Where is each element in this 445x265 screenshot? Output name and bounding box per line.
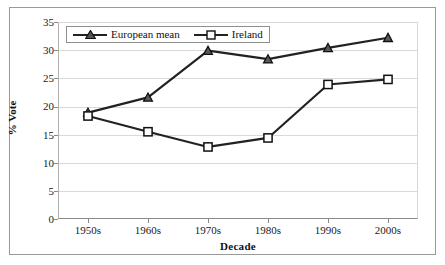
gridline: [59, 135, 417, 136]
legend-item-european-mean[interactable]: European mean: [73, 29, 180, 40]
legend-swatch: [73, 29, 107, 40]
y-tick-label: 0: [28, 214, 54, 225]
y-tick-label: 35: [28, 17, 54, 28]
x-tick-mark: [88, 219, 89, 223]
y-tick-label: 20: [28, 101, 54, 112]
gridline: [59, 191, 417, 192]
y-axis-tick-labels: 35 30 25 20 15 10 5 0: [26, 0, 54, 265]
legend-label: European mean: [111, 29, 180, 40]
y-tick-label: 25: [28, 73, 54, 84]
x-axis-title: Decade: [58, 240, 418, 252]
legend-label: Ireland: [232, 29, 263, 40]
x-tick-label: 2000s: [353, 224, 423, 236]
y-tick-label: 10: [28, 158, 54, 169]
legend-item-ireland[interactable]: Ireland: [194, 29, 263, 40]
x-tick-mark: [208, 219, 209, 223]
gridline: [59, 78, 417, 79]
y-tick-label: 30: [28, 45, 54, 56]
x-tick-mark: [148, 219, 149, 223]
x-tick-mark: [388, 219, 389, 223]
gridline: [59, 163, 417, 164]
legend-swatch: [194, 29, 228, 40]
chart-legend: European mean Ireland: [66, 26, 270, 43]
y-tick-mark: [54, 219, 58, 220]
plot-area: [58, 22, 418, 219]
triangle-marker-icon: [85, 30, 96, 39]
chart-figure: 35 30 25 20 15 10 5 0 1950s 1960s 1970s …: [0, 0, 445, 265]
y-tick-label: 15: [28, 130, 54, 141]
gridline: [59, 107, 417, 108]
y-tick-label: 5: [28, 186, 54, 197]
x-tick-mark: [268, 219, 269, 223]
square-marker-icon: [206, 30, 216, 40]
y-axis-title: % Vote: [6, 88, 18, 148]
x-tick-mark: [328, 219, 329, 223]
gridline: [59, 50, 417, 51]
